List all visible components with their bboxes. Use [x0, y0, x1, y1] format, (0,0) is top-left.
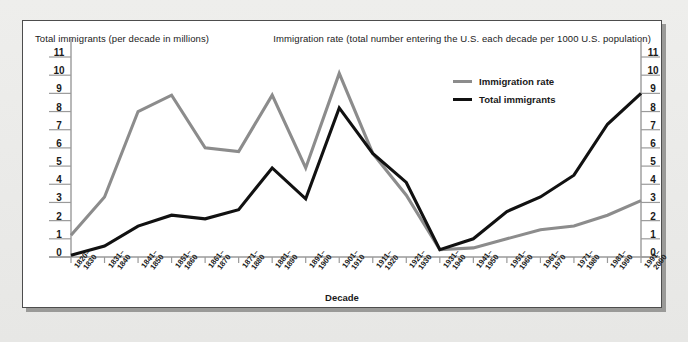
chart-legend: Immigration rate Total immigrants — [453, 76, 556, 112]
right-axis-tick-label: 1 — [643, 229, 663, 240]
left-axis-tick-label: 11 — [49, 47, 69, 58]
right-axis-tick-label: 7 — [643, 120, 663, 131]
legend-item-total-immigrants: Total immigrants — [453, 94, 556, 105]
left-axis-tick-label: 3 — [49, 192, 69, 203]
chart-panel: Total immigrants (per decade in millions… — [22, 20, 662, 308]
left-axis-tick-label: 8 — [49, 102, 69, 113]
left-axis-tick-label: 9 — [49, 83, 69, 94]
right-axis-tick-label: 2 — [643, 211, 663, 222]
right-axis-tick-label: 3 — [643, 192, 663, 203]
right-axis-tick-label: 8 — [643, 102, 663, 113]
legend-item-immigration-rate: Immigration rate — [453, 76, 556, 87]
left-axis-tick-label: 4 — [49, 174, 69, 185]
legend-label-immigration-rate: Immigration rate — [479, 76, 554, 87]
right-axis-tick-label: 11 — [643, 47, 663, 58]
legend-swatch-immigration-rate — [453, 80, 472, 83]
legend-swatch-total-immigrants — [453, 98, 472, 101]
left-axis-tick-label: 2 — [49, 211, 69, 222]
left-axis-tick-label: 6 — [49, 138, 69, 149]
left-axis-tick-label: 1 — [49, 229, 69, 240]
legend-label-total-immigrants: Total immigrants — [479, 94, 556, 105]
right-axis-tick-label: 10 — [643, 65, 663, 76]
right-axis-tick-label: 9 — [643, 83, 663, 94]
right-axis-tick-label: 6 — [643, 138, 663, 149]
left-axis-tick-label: 7 — [49, 120, 69, 131]
left-axis-tick-label: 0 — [49, 247, 69, 258]
left-axis-tick-label: 10 — [49, 65, 69, 76]
right-axis-tick-label: 5 — [643, 156, 663, 167]
x-axis-label: Decade — [23, 292, 661, 303]
right-axis-tick-label: 4 — [643, 174, 663, 185]
chart-figure: Total immigrants (per decade in millions… — [0, 0, 688, 342]
left-axis-tick-label: 5 — [49, 156, 69, 167]
